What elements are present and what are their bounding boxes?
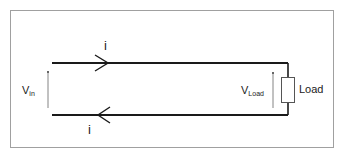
top-current-label: i — [104, 38, 107, 53]
bottom-current-label: i — [88, 122, 91, 137]
circuit-diagram: i i Load Vin VLoad — [0, 0, 342, 152]
load-label: Load — [299, 83, 323, 95]
vin-arrow-head — [47, 71, 49, 73]
load-resistor — [282, 78, 295, 103]
vload-arrow-head — [272, 72, 274, 74]
